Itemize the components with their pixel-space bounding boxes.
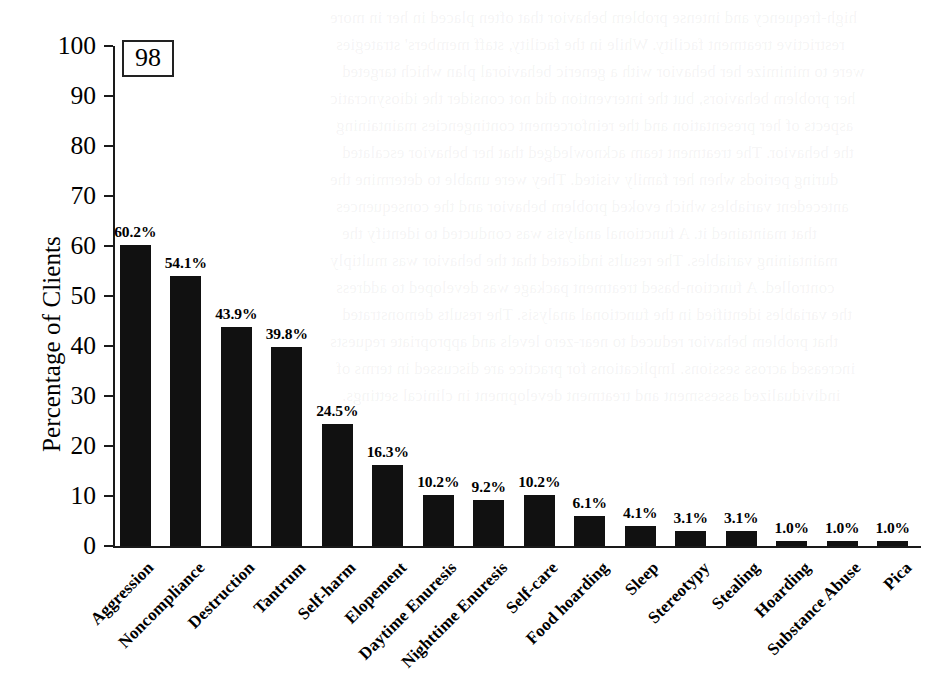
bar-value-label: 9.2% (472, 478, 506, 496)
bar-value-label: 1.0% (825, 519, 859, 537)
y-axis-line (113, 46, 115, 548)
y-axis-tick-label: 30 (71, 383, 97, 409)
y-axis-tick-label: 100 (58, 33, 96, 59)
y-axis-tick-label: 10 (71, 483, 97, 509)
y-axis-tick-label: 0 (83, 533, 96, 559)
bar-value-label: 24.5% (316, 402, 358, 420)
bar: 1.0% (877, 541, 908, 546)
figure-number-badge: 98 (122, 40, 174, 77)
bar-value-label: 16.3% (367, 443, 409, 461)
y-axis-tick: 0 (104, 545, 113, 547)
bar-value-label: 43.9% (215, 305, 257, 323)
bar: 16.3% (372, 465, 403, 547)
y-axis-tick: 30 (104, 395, 113, 397)
bar: 10.2% (423, 495, 454, 546)
y-axis-tick: 90 (104, 95, 113, 97)
y-axis-tick-label: 40 (71, 333, 97, 359)
plot-area: 0102030405060708090100 60.2%54.1%43.9%39… (113, 46, 921, 548)
bar: 1.0% (776, 541, 807, 546)
bar-value-label: 1.0% (775, 519, 809, 537)
bar-chart-figure: Percentage of Clients 010203040506070809… (0, 0, 943, 686)
y-axis-title: Percentage of Clients (38, 199, 66, 489)
y-axis-tick: 10 (104, 495, 113, 497)
y-axis-tick: 80 (104, 145, 113, 147)
x-axis-line (113, 546, 921, 548)
bar: 3.1% (726, 531, 757, 547)
bar-value-label: 3.1% (724, 509, 758, 527)
y-axis-tick: 20 (104, 445, 113, 447)
x-axis-category-label: Sleep (622, 558, 664, 600)
y-axis-tick-label: 50 (71, 283, 97, 309)
bar-value-label: 39.8% (266, 325, 308, 343)
y-axis-tick: 50 (104, 295, 113, 297)
bar-value-label: 60.2% (114, 223, 156, 241)
bar: 24.5% (322, 424, 353, 547)
x-axis-category-label: Substance Abuse (764, 558, 866, 660)
y-axis-tick-label: 70 (71, 183, 97, 209)
bar: 39.8% (271, 347, 302, 546)
bar-value-label: 1.0% (876, 519, 910, 537)
bar: 9.2% (473, 500, 504, 546)
y-axis-tick: 70 (104, 195, 113, 197)
y-axis-tick-label: 90 (71, 83, 97, 109)
x-axis-category-label: Pica (879, 558, 915, 594)
bar-value-label: 54.1% (165, 254, 207, 272)
y-axis-tick: 60 (104, 245, 113, 247)
bar: 4.1% (625, 526, 656, 547)
bar: 1.0% (827, 541, 858, 546)
bar: 60.2% (120, 245, 151, 546)
bar: 10.2% (524, 495, 555, 546)
bar-value-label: 6.1% (573, 494, 607, 512)
bar: 43.9% (221, 327, 252, 547)
bar: 6.1% (574, 516, 605, 547)
bar: 3.1% (675, 531, 706, 547)
bar-value-label: 4.1% (623, 504, 657, 522)
y-axis-tick: 40 (104, 345, 113, 347)
bar-value-label: 3.1% (674, 509, 708, 527)
y-axis-tick-label: 80 (71, 133, 97, 159)
bar-value-label: 10.2% (417, 473, 459, 491)
bar: 54.1% (170, 276, 201, 547)
bar-value-label: 10.2% (518, 473, 560, 491)
y-axis-tick: 100 (104, 45, 113, 47)
y-axis-tick-label: 20 (71, 433, 97, 459)
y-axis-tick-label: 60 (71, 233, 97, 259)
